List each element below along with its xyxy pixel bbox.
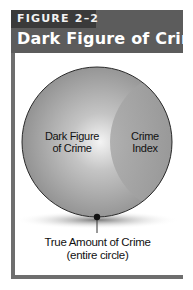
dark-figure-label: Dark Figure of Crime [32,130,112,154]
dark-figure-line1: Dark Figure [32,130,112,142]
true-amount-caption: True Amount of Crime (entire circle) [20,236,175,262]
crime-index-line2: Index [120,142,170,154]
dark-figure-line2: of Crime [32,142,112,154]
caption-line1: True Amount of Crime [20,236,175,249]
crime-index-label: Crime Index [120,130,170,154]
pointer-dot [94,214,100,220]
caption-line2: (entire circle) [20,249,175,262]
crime-index-line1: Crime [120,130,170,142]
